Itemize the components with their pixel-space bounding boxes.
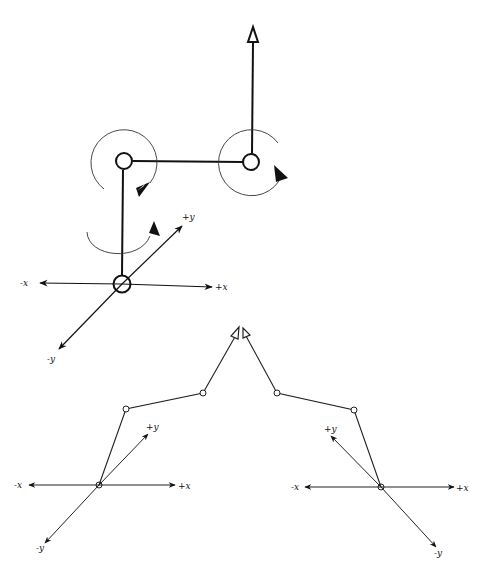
pos-x-axis-arrow: [122, 284, 212, 287]
br-arm-links: [246, 336, 381, 487]
br-label-neg-x: -x: [291, 482, 299, 492]
br-label-pos-y: +y: [324, 424, 338, 434]
base-rotation-arc: [87, 232, 150, 254]
bl-label-pos-x: +x: [178, 481, 191, 491]
diagram-canvas: -x +x +y -y: [0, 0, 483, 575]
bl-label-pos-y: +y: [146, 422, 160, 432]
bl-neg-y-axis-arrow: [45, 485, 99, 543]
shoulder-joint: [116, 153, 132, 169]
elbow-joint: [243, 154, 259, 170]
br-joint-2: [274, 390, 280, 396]
shoulder-rotation-arrowhead-icon: [136, 182, 150, 197]
br-label-neg-y: -y: [434, 548, 443, 558]
robot-arm-diagram: -x +x +y -y: [0, 0, 483, 575]
label-pos-x: +x: [215, 282, 228, 292]
br-joint-1: [351, 407, 357, 413]
label-neg-x: -x: [20, 278, 28, 288]
bl-joint-2: [200, 390, 206, 396]
open-arrowhead-up-icon: [248, 27, 258, 42]
br-label-pos-x: +x: [456, 483, 469, 493]
bl-open-arrowhead-icon: [231, 327, 239, 339]
pos-y-axis-arrow: [122, 226, 182, 284]
end-effector-link: [252, 42, 253, 153]
br-pos-y-axis-arrow: [331, 436, 381, 487]
br-neg-y-axis-arrow: [381, 487, 436, 547]
label-neg-y: -y: [47, 354, 56, 364]
label-pos-y: +y: [182, 212, 196, 222]
bl-joint-1: [123, 406, 129, 412]
top-axes: [40, 226, 212, 349]
bl-label-neg-x: -x: [14, 480, 22, 490]
neg-x-axis-arrow: [40, 283, 122, 284]
vertical-link: [122, 170, 123, 275]
horizontal-link: [133, 161, 243, 162]
base-rotation-arrowhead-icon: [149, 221, 160, 236]
top-figure: -x +x +y -y: [20, 27, 288, 364]
bottom-right-figure: -x +x +y -y: [243, 328, 469, 558]
top-links: [122, 42, 253, 275]
bl-label-neg-y: -y: [36, 543, 45, 553]
bl-arm-links: [99, 335, 236, 485]
br-open-arrowhead-icon: [243, 328, 250, 338]
elbow-rotation-arrowhead-icon: [274, 165, 288, 182]
bl-pos-y-axis-arrow: [99, 434, 148, 485]
neg-y-axis-arrow: [59, 284, 122, 349]
